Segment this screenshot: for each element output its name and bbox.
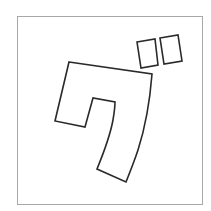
glyph-canvas: グ	[0, 0, 211, 211]
glyph-frame	[18, 17, 203, 205]
glyph-svg	[0, 0, 211, 211]
